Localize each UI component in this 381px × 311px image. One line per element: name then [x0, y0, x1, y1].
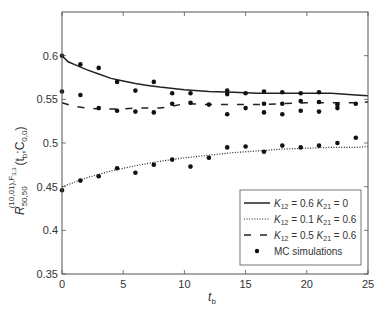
x-tick-label: 5	[120, 278, 126, 290]
mc-point	[152, 163, 157, 168]
x-axis-label: tb	[208, 290, 216, 306]
chart-container: 05101520250.350.40.450.50.550.6 tb R50,5…	[0, 0, 381, 311]
mc-point	[225, 145, 230, 150]
series-line-dotted	[62, 147, 368, 187]
mc-point	[133, 88, 138, 93]
mc-point	[280, 101, 285, 106]
mc-point	[96, 66, 101, 71]
mc-point	[298, 108, 303, 113]
mc-point	[262, 101, 267, 106]
mc-point	[115, 166, 120, 171]
mc-point	[280, 143, 285, 148]
x-tick-label: 25	[362, 278, 374, 290]
y-tick-label: 0.45	[37, 181, 58, 193]
mc-point	[317, 109, 322, 114]
mc-point	[170, 91, 175, 96]
mc-point	[262, 110, 267, 115]
series-line-dashed	[62, 102, 368, 109]
mc-point	[96, 106, 101, 111]
mc-point	[170, 157, 175, 162]
mc-point	[280, 90, 285, 95]
mc-point	[188, 101, 193, 106]
x-tick-label: 10	[178, 278, 190, 290]
mc-point	[96, 174, 101, 179]
mc-point	[225, 112, 230, 117]
mc-point	[243, 91, 248, 96]
mc-point	[354, 136, 359, 141]
mc-point	[115, 80, 120, 85]
mc-point	[207, 156, 212, 161]
mc-point	[317, 143, 322, 148]
mc-point	[335, 102, 340, 107]
mc-point	[133, 109, 138, 114]
mc-point	[207, 102, 212, 107]
mc-point	[243, 144, 248, 149]
legend: K12 = 0.6 K21 = 0 K12 = 0.1 K21 = 0.6 K1…	[240, 190, 361, 265]
svg-text:MC simulations: MC simulations	[274, 246, 342, 257]
mc-point	[115, 108, 120, 113]
mc-point	[225, 92, 230, 97]
mc-point	[298, 145, 303, 150]
mc-point	[335, 141, 340, 146]
mc-point	[354, 101, 359, 106]
y-tick-label: 0.4	[43, 224, 58, 236]
mc-point	[152, 110, 157, 115]
line-chart: 05101520250.350.40.450.50.550.6 tb R50,5…	[0, 0, 381, 311]
mc-point	[262, 89, 267, 94]
x-tick-label: 15	[239, 278, 251, 290]
mc-point	[78, 178, 83, 183]
mc-point	[280, 112, 285, 117]
y-tick-label: 0.55	[37, 93, 58, 105]
mc-point	[317, 100, 322, 105]
mc-point	[188, 91, 193, 96]
x-tick-label: 20	[301, 278, 313, 290]
series-line-solid	[62, 56, 368, 96]
mc-point	[188, 164, 193, 169]
mc-point	[170, 101, 175, 106]
mc-point	[78, 93, 83, 98]
mc-markers	[60, 53, 358, 192]
y-tick-label: 0.35	[37, 268, 58, 280]
y-tick-label: 0.5	[43, 137, 58, 149]
mc-point	[262, 149, 267, 154]
mc-point	[298, 99, 303, 104]
mc-point	[317, 90, 322, 95]
mc-point	[243, 106, 248, 111]
x-tick-label: 0	[59, 278, 65, 290]
mc-point	[298, 91, 303, 96]
y-tick-label: 0.6	[43, 50, 58, 62]
mc-point	[152, 80, 157, 85]
series-layer	[62, 56, 368, 187]
mc-point	[133, 170, 138, 175]
mc-point	[78, 62, 83, 67]
y-axis-label: R50,50(10,01),F3,3(tb;C0,0)	[7, 127, 29, 215]
